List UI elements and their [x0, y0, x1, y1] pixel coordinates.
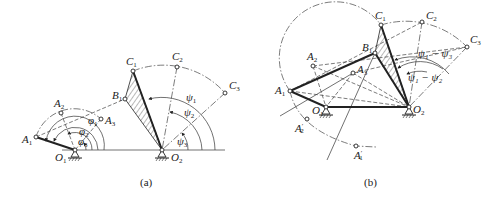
label-c1: C1 [126, 55, 137, 69]
label-a2: A2 [53, 97, 65, 111]
label-a1-b: A1 [274, 84, 286, 98]
line-c2-o2 [162, 67, 177, 150]
joint-a1 [34, 135, 38, 139]
figure-b: A1 A2 A3 A′2 A′1 B1 C1 C2 C3 O1 O2 ψ₁ − … [274, 2, 481, 189]
rocker-arc [133, 65, 225, 93]
label-o1: O1 [55, 151, 67, 165]
label-c3: C3 [229, 79, 240, 93]
joint-b1-b [373, 51, 377, 55]
label-psi2: ψ2 [184, 106, 195, 120]
four-bar-linkage-diagram: A1 A2 A3 B1 C1 C2 C3 O1 O2 φ1 φ2 φ3 ψ1 ψ… [0, 0, 488, 204]
pivot-o2-b [407, 105, 411, 109]
label-a3-b: A3 [356, 63, 368, 77]
label-phi1: φ1 [88, 114, 98, 128]
label-psi1-psi3: ψ₁ − ψ₃ [418, 47, 452, 59]
pivot-o1 [73, 148, 77, 152]
rocker-arc-b [381, 21, 467, 47]
joint-c2 [175, 65, 179, 69]
joint-b1 [123, 97, 127, 101]
label-psi3: ψ3 [177, 135, 188, 149]
rocker-link [125, 71, 162, 150]
label-o2: O2 [171, 151, 183, 165]
label-o2-b: O2 [413, 103, 425, 117]
label-a2-b: A2 [306, 50, 318, 64]
crank-link [36, 137, 75, 150]
figure-a: A1 A2 A3 B1 C1 C2 C3 O1 O2 φ1 φ2 φ3 ψ1 ψ… [21, 50, 240, 189]
joint-c3 [223, 91, 227, 95]
joint-c1 [131, 69, 135, 73]
label-psi1: ψ1 [186, 91, 197, 105]
joint-a1-prime [354, 144, 358, 148]
joint-a1-b [288, 89, 292, 93]
caption-b: (b) [364, 176, 377, 189]
pivot-o1-b [324, 105, 328, 109]
caption-a: (a) [140, 176, 153, 189]
joint-c3-b [465, 45, 469, 49]
joint-a2 [59, 111, 63, 115]
label-b1: B1 [112, 89, 123, 103]
label-a1: A1 [21, 133, 33, 147]
joint-a3-b [351, 71, 355, 75]
label-c3-b: C3 [470, 33, 481, 47]
label-c2: C2 [172, 50, 183, 64]
joint-c2-b [420, 20, 424, 24]
label-b1-b: B1 [362, 41, 373, 55]
label-a1-prime: A′1 [353, 149, 363, 162]
label-a3: A3 [104, 114, 116, 128]
label-c1-b: C1 [375, 9, 386, 23]
pivot-o2 [160, 148, 164, 152]
label-a2-prime: A′2 [294, 122, 304, 135]
joint-a3 [99, 117, 103, 121]
label-psi1-psi2: ψ₁ − ψ₂ [408, 71, 442, 83]
joint-a2-b [311, 64, 315, 68]
arc-a-prime [290, 91, 376, 147]
joint-a2-prime [305, 117, 309, 121]
label-c2-b: C2 [426, 9, 437, 23]
joint-c1-b [379, 23, 383, 27]
